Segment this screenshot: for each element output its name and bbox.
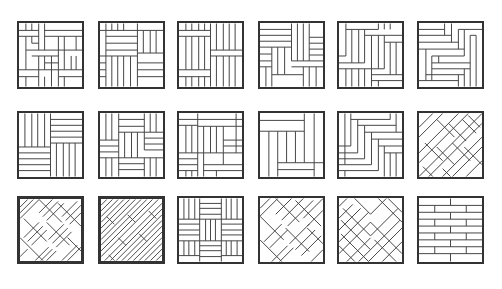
tile-pinwheel-square-planks: [98, 21, 165, 89]
pattern-r2c6: [419, 113, 482, 177]
tile-stepped-herringbone-left: [337, 111, 404, 179]
tile-diagonal-staggered-strips: [98, 196, 165, 264]
pattern-r3c4: [260, 198, 323, 262]
pattern-r1c3: [179, 23, 242, 87]
pattern-r3c5: [339, 198, 402, 262]
tile-woven-cross: [98, 111, 165, 179]
pattern-r2c2: [100, 113, 163, 177]
tile-checkerboard-basket: [177, 196, 244, 264]
tile-vertical-with-horizontal-bands: [177, 21, 244, 89]
tile-staggered-herringbone-blocks: [337, 21, 404, 89]
pattern-r1c6: [419, 23, 482, 87]
tile-pinwheel-offset: [258, 21, 325, 89]
pattern-r3c6: [419, 198, 482, 262]
tile-interlocking-l-blocks: [177, 111, 244, 179]
pattern-r2c3: [179, 113, 242, 177]
tile-diagonal-basket-wide: [258, 196, 325, 264]
tile-diagonal-herringbone: [417, 111, 484, 179]
pattern-r3c2: [101, 199, 162, 261]
pattern-r1c2: [100, 23, 163, 87]
pattern-r2c5: [339, 113, 402, 177]
pattern-r1c1: [19, 23, 82, 87]
tile-stepped-herringbone: [417, 21, 484, 89]
pattern-r1c5: [339, 23, 402, 87]
pattern-r3c3: [179, 198, 242, 262]
pattern-r3c1: [20, 199, 81, 261]
tile-four-quadrant-basket: [17, 111, 84, 179]
tile-basket-weave-interlaced: [17, 21, 84, 89]
pattern-r2c1: [19, 113, 82, 177]
tile-brick-running-bond: [417, 196, 484, 264]
tile-chevron-herringbone: [337, 196, 404, 264]
tile-diagonal-basket-weave: [17, 196, 84, 264]
tile-frame-with-vertical-center: [258, 111, 325, 179]
pattern-r1c4: [260, 23, 323, 87]
pattern-r2c4: [260, 113, 323, 177]
